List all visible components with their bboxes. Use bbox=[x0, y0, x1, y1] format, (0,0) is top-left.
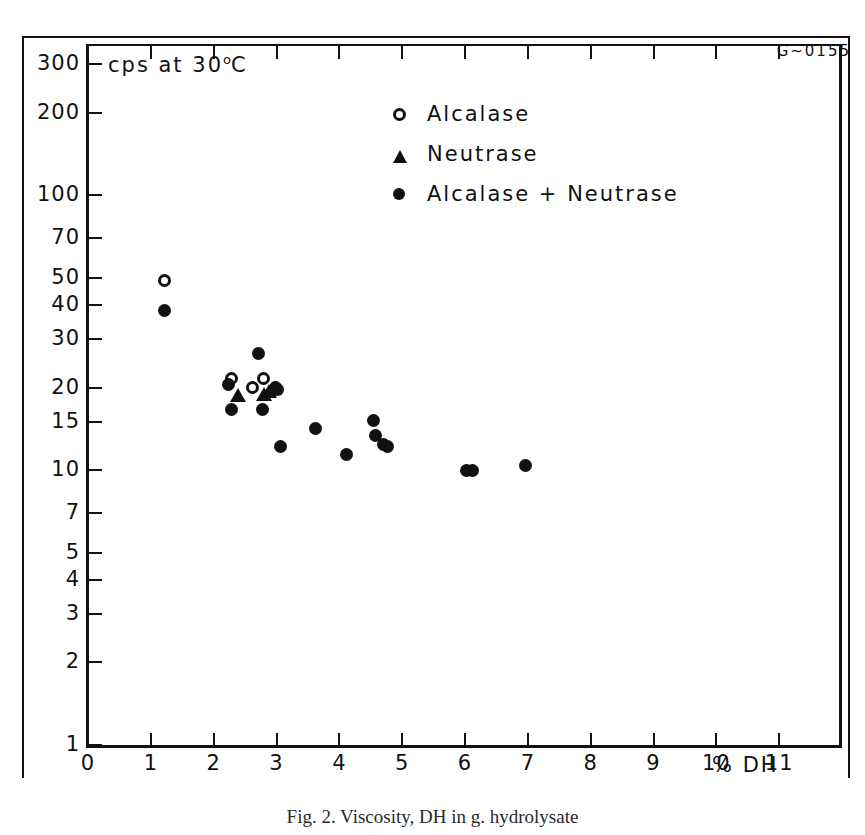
y-axis-tick-label: 70 bbox=[22, 227, 80, 248]
plot-annotation-cps-unit: C bbox=[231, 53, 248, 77]
x-axis-tick bbox=[213, 733, 215, 746]
filled-triangle-marker-icon bbox=[393, 150, 407, 163]
y-axis-tick bbox=[89, 304, 102, 306]
y-axis-line bbox=[86, 44, 89, 748]
x-axis-tick-label: 9 bbox=[634, 753, 674, 774]
x-axis-tick-label: 8 bbox=[571, 753, 611, 774]
y-axis-tick bbox=[89, 387, 102, 389]
open-circle-marker-icon bbox=[393, 108, 406, 121]
y-axis-tick-label: 15 bbox=[22, 411, 80, 432]
plot-annotation-cps-text: cps at 30 bbox=[108, 53, 223, 77]
figure-sheet: 30020010070504030201510754321 0123456789… bbox=[0, 0, 865, 835]
x-axis-tick-top bbox=[401, 46, 403, 59]
y-axis-tick-label: 200 bbox=[22, 102, 80, 123]
y-axis-tick-label: 20 bbox=[22, 377, 80, 398]
y-axis-tick bbox=[89, 237, 102, 239]
data-point bbox=[367, 414, 380, 427]
data-point bbox=[309, 422, 322, 435]
legend-item-label: Alcalase bbox=[427, 102, 530, 126]
y-axis-tick bbox=[89, 421, 102, 423]
y-axis-tick-label: 2 bbox=[22, 651, 80, 672]
x-axis-tick bbox=[653, 733, 655, 746]
x-axis-tick-label: 4 bbox=[319, 753, 359, 774]
data-point bbox=[225, 403, 238, 416]
x-axis-title: % DH bbox=[712, 753, 779, 777]
y-axis-tick bbox=[89, 469, 102, 471]
y-axis-tick-label: 30 bbox=[22, 328, 80, 349]
y-axis-tick bbox=[89, 512, 102, 514]
y-axis-tick bbox=[89, 112, 102, 114]
data-point bbox=[519, 459, 532, 472]
plot-annotation-cps: cps at 30oC bbox=[108, 52, 248, 77]
y-axis-tick bbox=[89, 661, 102, 663]
data-point bbox=[230, 388, 246, 402]
x-axis-tick-top bbox=[276, 46, 278, 59]
x-axis-tick bbox=[464, 733, 466, 746]
x-axis-tick-top bbox=[338, 46, 340, 59]
x-axis-tick-label: 3 bbox=[257, 753, 297, 774]
y-axis-tick-label: 10 bbox=[22, 459, 80, 480]
y-axis-tick bbox=[89, 277, 102, 279]
x-axis-tick-label: 5 bbox=[382, 753, 422, 774]
legend-item-label: Neutrase bbox=[427, 142, 539, 166]
data-point bbox=[466, 464, 479, 477]
x-axis-tick-label: 2 bbox=[194, 753, 234, 774]
y-axis-tick bbox=[89, 338, 102, 340]
x-axis-tick-label: 6 bbox=[445, 753, 485, 774]
legend-item-label: Alcalase + Neutrase bbox=[427, 182, 679, 206]
x-axis-tick-top bbox=[590, 46, 592, 59]
y-axis-tick bbox=[89, 552, 102, 554]
figure-caption: Fig. 2. Viscosity, DH in g. hydrolysate bbox=[0, 806, 865, 828]
y-axis-tick bbox=[89, 613, 102, 615]
x-axis-tick bbox=[87, 733, 89, 746]
x-axis-tick-top bbox=[527, 46, 529, 59]
filled-circle-marker-icon bbox=[393, 188, 405, 200]
figure-corner-code: G~0155 bbox=[777, 42, 851, 60]
x-axis-tick-top bbox=[87, 46, 89, 59]
y-axis-tick-label: 100 bbox=[22, 184, 80, 205]
x-axis-tick bbox=[338, 733, 340, 746]
x-axis-tick-top bbox=[715, 46, 717, 59]
data-point bbox=[222, 378, 235, 391]
x-axis-tick-top bbox=[464, 46, 466, 59]
y-axis-tick-label: 1 bbox=[22, 734, 80, 755]
x-axis-tick-label: 7 bbox=[508, 753, 548, 774]
degree-symbol: o bbox=[223, 52, 231, 67]
x-axis-tick bbox=[590, 733, 592, 746]
y-axis-tick bbox=[89, 194, 102, 196]
figure-outer-frame-right bbox=[848, 36, 850, 778]
x-axis-tick-top bbox=[653, 46, 655, 59]
x-axis-tick bbox=[527, 733, 529, 746]
data-point bbox=[274, 440, 287, 453]
x-axis-tick-label: 0 bbox=[68, 753, 108, 774]
x-axis-tick bbox=[715, 733, 717, 746]
y-axis-tick-label: 3 bbox=[22, 603, 80, 624]
y-axis-tick-label: 5 bbox=[22, 542, 80, 563]
y-axis-tick bbox=[89, 744, 102, 746]
x-axis-tick bbox=[150, 733, 152, 746]
y-axis-tick-label: 40 bbox=[22, 294, 80, 315]
x-axis-tick-label: 1 bbox=[131, 753, 171, 774]
y-axis-tick-label: 50 bbox=[22, 267, 80, 288]
x-axis-tick bbox=[778, 733, 780, 746]
y-axis-tick-label: 4 bbox=[22, 569, 80, 590]
x-axis-tick bbox=[401, 733, 403, 746]
y-axis-tick-label: 300 bbox=[22, 53, 80, 74]
x-axis-tick bbox=[276, 733, 278, 746]
data-point bbox=[381, 440, 394, 453]
y-axis-tick bbox=[89, 579, 102, 581]
y-axis-tick bbox=[89, 63, 102, 65]
y-axis-tick-label: 7 bbox=[22, 502, 80, 523]
